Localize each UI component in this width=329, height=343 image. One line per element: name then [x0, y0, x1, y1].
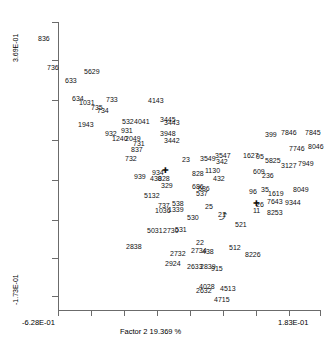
- data-point-label: 399: [265, 131, 277, 138]
- data-point-label: 96: [249, 188, 257, 195]
- x-axis-max-label: 1.83E-01: [278, 318, 308, 327]
- data-point-label: 3549: [200, 155, 216, 162]
- y-axis-tick: [52, 100, 59, 101]
- x-axis-min-label: -6.28E-01: [22, 318, 55, 327]
- data-point-label: 733: [106, 96, 118, 103]
- data-point-label: 95: [256, 153, 264, 160]
- data-point-label: 530: [187, 214, 199, 221]
- data-point-label: 5031: [147, 227, 163, 234]
- data-point-label: 7846: [281, 129, 297, 136]
- data-point-label: 915: [211, 265, 223, 272]
- data-point-label: 7845: [305, 129, 321, 136]
- y-axis-tick: [52, 296, 59, 297]
- data-point-label: 7643: [267, 198, 283, 205]
- data-point-label: 4041: [134, 118, 150, 125]
- data-point-label: 736: [47, 64, 59, 71]
- data-point-label: 7949: [298, 160, 314, 167]
- data-point-label: 236: [262, 172, 274, 179]
- data-point-label: 2632: [196, 287, 212, 294]
- data-point-label: 2838: [126, 243, 142, 250]
- data-point-label: 1619: [268, 190, 284, 197]
- cross-marker: ✚: [253, 200, 260, 208]
- data-point-label: 1130: [205, 167, 220, 174]
- x-axis-line: [58, 310, 320, 311]
- data-point-label: 828: [192, 170, 204, 177]
- x-axis-tick: [91, 310, 92, 316]
- data-point-label: 8253: [267, 209, 283, 216]
- data-point-label: 3948: [160, 130, 176, 137]
- data-point-label: 25: [205, 203, 213, 210]
- data-point-label: 836: [38, 35, 50, 42]
- data-point-label: 5132: [144, 192, 160, 199]
- data-point-label: 512: [229, 244, 241, 251]
- data-point-label: 3442: [164, 137, 180, 144]
- data-point-label: 8046: [308, 143, 324, 150]
- data-point-label: 537: [196, 190, 208, 197]
- data-point-label: 4715: [214, 296, 230, 303]
- x-axis-tick: [223, 310, 224, 316]
- data-point-label: 7746: [289, 145, 305, 152]
- data-point-label: 3127: [281, 162, 297, 169]
- x-axis-title: Factor 2 19.369 %: [120, 327, 181, 336]
- data-point-label: 1339: [168, 206, 184, 213]
- arrow-marker: ⤴: [219, 213, 227, 221]
- y-axis-tick: [52, 180, 59, 181]
- y-axis-min-label: -1.73E-01: [12, 274, 19, 305]
- data-point-label: 11: [253, 207, 260, 214]
- data-point-label: 828: [158, 175, 170, 182]
- x-axis-tick: [256, 310, 257, 316]
- y-axis-tick: [52, 258, 59, 259]
- y-axis-max-label: 3.69E-01: [12, 34, 19, 62]
- data-point-label: 734: [97, 107, 109, 114]
- data-point-label: 732: [125, 155, 137, 162]
- data-point-label: 3443: [164, 119, 180, 126]
- data-point-label: 342: [216, 158, 228, 165]
- data-point-label: 5629: [84, 68, 100, 75]
- data-point-label: 9344: [285, 199, 301, 206]
- data-point-label: 531: [175, 226, 187, 233]
- data-point-label: 22: [196, 239, 204, 246]
- data-point-label: 931: [121, 127, 133, 134]
- x-axis-tick: [58, 310, 59, 316]
- data-point-label: 5825: [265, 157, 281, 164]
- data-point-label: 2924: [165, 260, 181, 267]
- data-point-label: 2732: [170, 250, 186, 257]
- data-point-label: 4513: [220, 285, 236, 292]
- data-point-label: 939: [134, 173, 146, 180]
- data-point-label: 8226: [245, 251, 261, 258]
- x-axis-tick: [124, 310, 125, 316]
- data-point-label: 4143: [148, 97, 164, 104]
- data-point-label: 329: [161, 182, 173, 189]
- x-axis-tick: [157, 310, 158, 316]
- y-axis-tick: [52, 22, 59, 23]
- data-point-label: 837: [131, 146, 143, 153]
- y-axis-tick: [52, 140, 59, 141]
- cross-marker: ✚: [162, 167, 169, 175]
- data-point-label: 8049: [293, 186, 309, 193]
- data-point-label: 432: [213, 175, 225, 182]
- x-axis-tick: [289, 310, 290, 316]
- data-point-label: 521: [235, 221, 247, 228]
- data-point-label: 23: [182, 156, 190, 163]
- data-point-label: 532: [122, 118, 134, 125]
- data-point-label: 438: [202, 248, 214, 255]
- y-axis-tick: [52, 60, 59, 61]
- data-point-label: 1943: [78, 121, 94, 128]
- data-point-label: 633: [65, 77, 77, 84]
- x-axis-tick: [320, 310, 321, 316]
- x-axis-tick: [190, 310, 191, 316]
- y-axis-tick: [52, 220, 59, 221]
- scatter-plot-canvas: 3.69E-01 -1.73E-01 -6.28E-01 1.83E-01 Fa…: [0, 0, 329, 343]
